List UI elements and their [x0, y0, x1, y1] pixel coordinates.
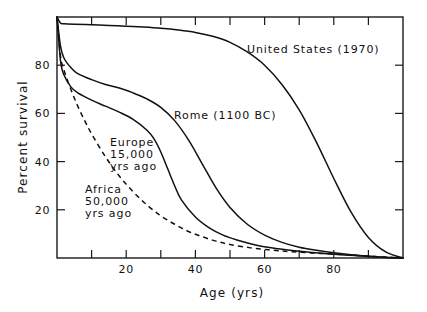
y-axis-title: Percent survival [16, 80, 30, 194]
y-axis-ticks-right [395, 65, 403, 210]
y-tick-label-20: 20 [35, 204, 50, 217]
x-tick-label-20: 20 [119, 263, 134, 276]
series-label-africa-line3: yrs ago [85, 207, 132, 220]
y-tick-label-40: 40 [35, 156, 50, 169]
x-tick-label-40: 40 [188, 263, 203, 276]
chart-canvas: 20 40 60 80 20 40 60 80 Age (yrs) Percen… [0, 0, 427, 312]
x-axis-title: Age (yrs) [200, 286, 265, 300]
survivorship-chart: 20 40 60 80 20 40 60 80 Age (yrs) Percen… [0, 0, 427, 312]
series-label-rome: Rome (1100 BC) [174, 109, 277, 122]
y-tick-label-60: 60 [35, 107, 50, 120]
x-axis-ticks-top [92, 17, 369, 25]
series-label-united-states: United States (1970) [247, 43, 380, 56]
x-tick-label-60: 60 [257, 263, 272, 276]
x-tick-label-80: 80 [326, 263, 341, 276]
series-label-europe-line3: yrs ago [110, 160, 157, 173]
y-tick-label-80: 80 [35, 59, 50, 72]
y-axis-ticks-left [57, 65, 65, 210]
